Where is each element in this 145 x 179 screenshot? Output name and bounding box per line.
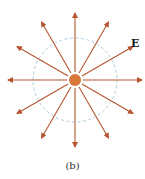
figure-caption: (b) — [0, 160, 145, 171]
field-line-arrow — [82, 47, 133, 77]
field-line-arrow — [42, 22, 72, 73]
field-line-arrow — [17, 84, 68, 114]
field-line-arrow — [79, 87, 109, 138]
field-line-arrow — [79, 22, 109, 73]
point-charge — [69, 74, 81, 86]
field-label-e: E — [131, 37, 139, 50]
field-diagram — [0, 0, 145, 179]
field-line-arrow — [42, 87, 72, 138]
field-line-arrow — [17, 47, 68, 77]
field-line-arrow — [82, 84, 133, 114]
